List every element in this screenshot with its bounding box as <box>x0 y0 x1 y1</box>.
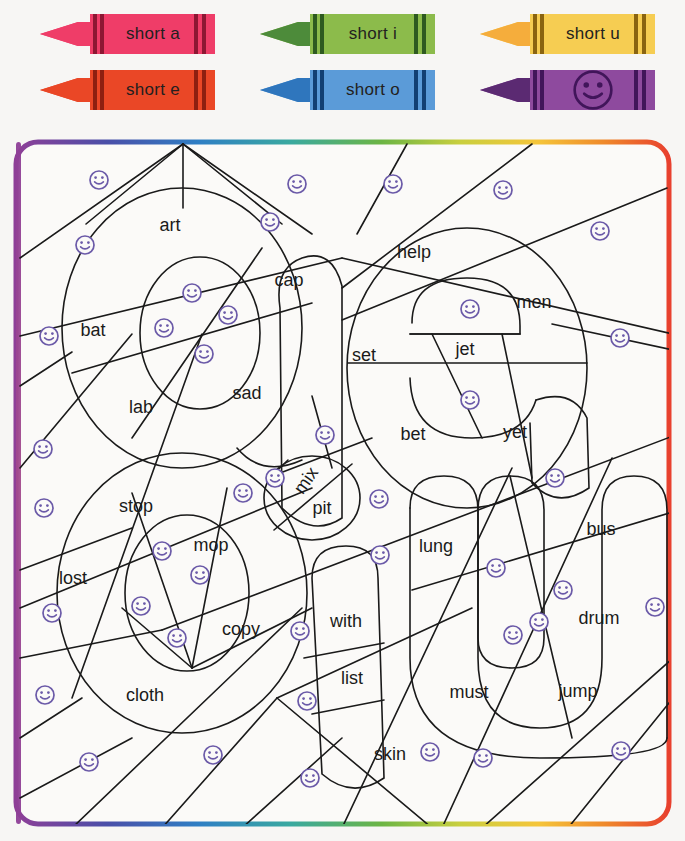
puzzle-word: skin <box>374 744 406 764</box>
crayon-label: short u <box>534 12 652 56</box>
puzzle-canvas[interactable]: artcapbatlabsadhelpmensetjetbetyetmixpit… <box>12 138 673 828</box>
puzzle-word: mop <box>193 535 228 555</box>
puzzle-word: bet <box>400 424 425 444</box>
puzzle-word: pit <box>312 498 331 518</box>
puzzle-frame-left-edge <box>16 142 21 824</box>
puzzle-word: cloth <box>126 685 164 705</box>
puzzle-word: bat <box>80 320 105 340</box>
crayon-label: short a <box>94 12 212 56</box>
crayon-short-e[interactable]: short e <box>32 68 217 112</box>
crayon-short-o[interactable]: short o <box>252 68 437 112</box>
puzzle-word: with <box>329 611 362 631</box>
puzzle-word: drum <box>578 608 619 628</box>
crayon-label: short i <box>314 12 432 56</box>
puzzle-word: help <box>397 242 431 262</box>
worksheet-page: short ashort eshort ishort oshort u <box>0 0 685 841</box>
puzzle-word: jet <box>454 339 474 359</box>
puzzle-word: sad <box>232 383 261 403</box>
puzzle-area[interactable]: artcapbatlabsadhelpmensetjetbetyetmixpit… <box>12 138 673 828</box>
crayon-short-u[interactable]: short u <box>472 12 657 56</box>
puzzle-word: cap <box>274 270 303 290</box>
puzzle-word: must <box>449 682 488 702</box>
puzzle-word: lung <box>419 536 453 556</box>
crayon-purple-smile[interactable] <box>472 68 657 112</box>
puzzle-word: yet <box>503 422 527 442</box>
puzzle-word: art <box>159 215 180 235</box>
crayon-short-a[interactable]: short a <box>32 12 217 56</box>
puzzle-word: jump <box>557 681 597 701</box>
crayon-label: short e <box>94 68 212 112</box>
crayon-label: short o <box>314 68 432 112</box>
puzzle-word: list <box>341 668 363 688</box>
puzzle-word: bus <box>586 519 615 539</box>
crayon-short-i[interactable]: short i <box>252 12 437 56</box>
puzzle-word: lab <box>129 397 153 417</box>
smiley-icon <box>534 68 652 112</box>
puzzle-word: copy <box>222 619 260 639</box>
puzzle-word: stop <box>119 496 153 516</box>
puzzle-word: set <box>352 345 376 365</box>
puzzle-word: lost <box>59 568 87 588</box>
crayon-legend: short ashort eshort ishort oshort u <box>0 0 685 128</box>
puzzle-word: men <box>516 292 551 312</box>
